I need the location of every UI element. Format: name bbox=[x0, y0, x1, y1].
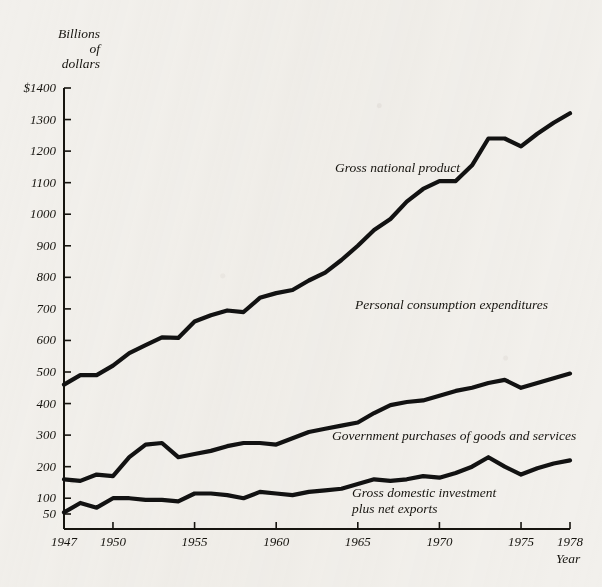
y-tick-label: 800 bbox=[8, 269, 56, 285]
x-tick-label: 1965 bbox=[328, 534, 388, 550]
y-tick-label: 300 bbox=[8, 427, 56, 443]
y-tick-label: $1400 bbox=[8, 80, 56, 96]
x-tick-label: 1960 bbox=[246, 534, 306, 550]
y-tick-label: 400 bbox=[8, 396, 56, 412]
y-tick-label: 600 bbox=[8, 332, 56, 348]
y-tick-label: 900 bbox=[8, 238, 56, 254]
x-tick-label: 1970 bbox=[409, 534, 469, 550]
series-line-gross-national-product bbox=[64, 113, 570, 384]
y-tick-label: 100 bbox=[8, 490, 56, 506]
series-label-gross-domestic-investment-line2: plus net exports bbox=[352, 501, 438, 517]
y-tick-label: 200 bbox=[8, 459, 56, 475]
series-label-government-purchases: Government purchases of goods and servic… bbox=[332, 428, 576, 444]
y-tick-label: 1200 bbox=[8, 143, 56, 159]
series-label-gross-national-product: Gross national product bbox=[335, 160, 460, 176]
y-tick-label: 1300 bbox=[8, 112, 56, 128]
economics-line-chart: Billions of dollars Year 501002003004005… bbox=[0, 0, 602, 587]
plot-area bbox=[0, 0, 602, 587]
x-tick-label: 1955 bbox=[165, 534, 225, 550]
y-tick-label: 700 bbox=[8, 301, 56, 317]
y-tick-label: 50 bbox=[8, 506, 56, 522]
series-label-gross-domestic-investment-line1: Gross domestic investment bbox=[352, 485, 496, 501]
y-tick-label: 500 bbox=[8, 364, 56, 380]
x-tick-label: 1978 bbox=[540, 534, 600, 550]
x-tick-label: 1950 bbox=[83, 534, 143, 550]
x-axis-ticks bbox=[64, 522, 570, 529]
series-label-personal-consumption-expenditures: Personal consumption expenditures bbox=[355, 297, 548, 313]
y-tick-label: 1000 bbox=[8, 206, 56, 222]
y-tick-label: 1100 bbox=[8, 175, 56, 191]
y-axis-ticks bbox=[64, 88, 71, 514]
